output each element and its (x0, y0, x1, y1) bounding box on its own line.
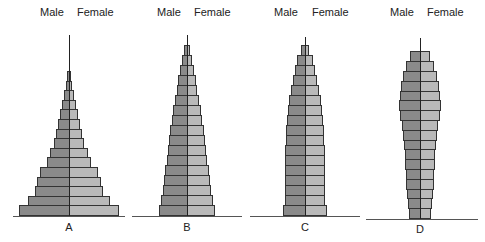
female-bar (420, 120, 438, 131)
male-label: Male (390, 6, 414, 18)
baseline (13, 216, 125, 217)
female-bar (69, 205, 119, 216)
female-bar (187, 115, 202, 126)
female-bar (420, 51, 430, 62)
female-bar (69, 177, 101, 188)
female-bar (69, 196, 110, 207)
male-bar (37, 177, 69, 188)
pyramid-letter: B (183, 221, 190, 233)
female-bar (420, 179, 434, 190)
center-axis-line (69, 35, 70, 216)
male-bar (19, 205, 69, 216)
center-axis-line (187, 35, 188, 216)
female-bar (187, 175, 210, 186)
female-bar (187, 95, 199, 106)
female-bar (69, 129, 82, 140)
center-axis-line (305, 37, 306, 216)
female-bar (305, 125, 324, 136)
female-bar (187, 145, 206, 156)
male-bar (285, 195, 305, 206)
male-bar (50, 148, 69, 159)
population-pyramids-figure: Male Female A Male Female B Male Female … (0, 0, 485, 242)
female-bar (305, 85, 319, 96)
female-label: Female (427, 6, 464, 18)
male-bar (283, 205, 305, 216)
female-bar (420, 81, 439, 92)
male-bar (288, 105, 305, 116)
male-bar (403, 130, 420, 141)
male-bar (60, 109, 69, 120)
female-bar (420, 198, 432, 209)
male-bar (54, 138, 69, 149)
female-bar (305, 75, 317, 86)
female-bar (305, 155, 325, 166)
male-bar (399, 100, 420, 111)
female-bar (69, 157, 91, 168)
female-bar (69, 186, 103, 197)
male-bar (293, 75, 305, 86)
male-bar (410, 51, 420, 62)
male-bar (286, 135, 305, 146)
male-bar (285, 155, 305, 166)
male-bar (180, 65, 187, 76)
male-bar (404, 140, 420, 151)
male-bar (285, 185, 305, 196)
male-bar (40, 167, 69, 178)
female-bar (420, 189, 433, 200)
female-bar (420, 208, 431, 219)
male-bar (407, 189, 420, 200)
baseline (250, 216, 360, 217)
male-bar (297, 55, 305, 66)
female-bar (305, 145, 325, 156)
female-bar (305, 205, 327, 216)
female-bar (420, 159, 435, 170)
female-label: Female (194, 6, 231, 18)
female-bar (420, 130, 437, 141)
male-bar (295, 65, 305, 76)
female-label: Female (312, 6, 349, 18)
male-bar (406, 169, 420, 180)
female-bar (187, 65, 194, 76)
male-bar (62, 100, 69, 111)
male-bar (285, 165, 305, 176)
baseline (366, 219, 478, 220)
female-bar (69, 138, 84, 149)
female-bar (187, 195, 213, 206)
male-bar (291, 85, 305, 96)
female-bar (420, 61, 434, 72)
male-label: Male (40, 6, 64, 18)
male-bar (400, 110, 420, 121)
male-label: Male (274, 6, 298, 18)
female-bar (69, 109, 78, 120)
male-bar (403, 71, 420, 82)
male-bar (164, 175, 187, 186)
female-bar (420, 100, 441, 111)
female-bar (305, 55, 313, 66)
female-bar (187, 155, 207, 166)
male-bar (173, 105, 187, 116)
male-bar (406, 179, 420, 190)
male-bar (402, 120, 420, 131)
male-bar (28, 196, 69, 207)
female-bar (187, 205, 215, 216)
female-bar (187, 85, 197, 96)
female-bar (69, 119, 80, 130)
male-bar (285, 145, 305, 156)
male-bar (406, 61, 420, 72)
female-bar (305, 135, 324, 146)
male-bar (170, 125, 187, 136)
female-bar (305, 195, 325, 206)
male-bar (56, 129, 69, 140)
male-bar (400, 91, 420, 102)
female-bar (69, 148, 88, 159)
female-bar (305, 175, 325, 186)
pyramid-letter: A (65, 221, 72, 233)
female-bar (305, 165, 325, 176)
female-bar (305, 115, 323, 126)
male-bar (177, 85, 187, 96)
female-bar (69, 100, 76, 111)
male-bar (47, 157, 69, 168)
female-bar (305, 105, 322, 116)
female-bar (420, 110, 440, 121)
male-bar (285, 175, 305, 186)
